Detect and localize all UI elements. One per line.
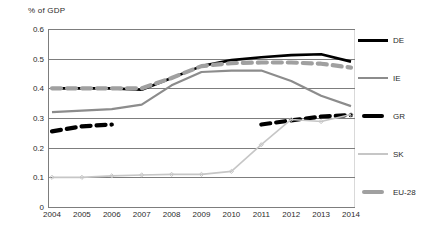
x-axis-tick-label: 2013	[312, 210, 330, 219]
x-axis-tick-label: 2007	[133, 210, 151, 219]
x-axis-tick-label: 2012	[282, 210, 300, 219]
y-axis-tick-labels: 00.10.20.30.40.50.6	[0, 29, 44, 207]
y-axis-tick-label: 0	[0, 203, 44, 212]
legend-swatch-sk	[358, 153, 388, 155]
x-axis-tick-label: 2010	[222, 210, 240, 219]
legend-swatch-gr	[362, 114, 384, 118]
y-axis-title: % of GDP	[28, 6, 65, 15]
x-axis-tick-label: 2009	[193, 210, 211, 219]
y-axis-tick-label: 0.6	[0, 25, 44, 34]
y-axis-tick-label: 0.1	[0, 173, 44, 182]
legend-item-de[interactable]: DE	[358, 34, 404, 46]
series-line-gr	[52, 125, 112, 132]
x-axis-tick-label: 2011	[253, 210, 270, 219]
series-line-ie	[52, 71, 351, 113]
plot-area	[48, 29, 355, 207]
y-axis-tick-label: 0.3	[0, 114, 44, 123]
x-axis-tick-label: 2014	[342, 210, 360, 219]
gridline	[48, 207, 355, 208]
legend-swatch-eu-28	[362, 190, 384, 194]
legend-item-ie[interactable]: IE	[358, 72, 401, 84]
legend-item-sk[interactable]: SK	[358, 148, 404, 160]
legend-label: SK	[393, 150, 404, 159]
legend-item-eu-28[interactable]: EU-28	[358, 186, 416, 198]
y-axis-tick-label: 0.4	[0, 84, 44, 93]
legend-item-gr[interactable]: GR	[358, 110, 405, 122]
legend-label: IE	[393, 74, 401, 83]
legend-label: GR	[393, 112, 405, 121]
legend-label: DE	[393, 36, 404, 45]
x-axis-tick-label: 2006	[103, 210, 121, 219]
x-axis-tick-label: 2005	[73, 210, 91, 219]
legend-swatch-ie	[358, 77, 388, 79]
y-axis-tick-label: 0.5	[0, 54, 44, 63]
legend-swatch-de	[358, 39, 388, 42]
y-axis-tick-label: 0.2	[0, 143, 44, 152]
x-axis-tick-label: 2004	[43, 210, 61, 219]
series-lines	[48, 29, 355, 207]
series-line-eu-28	[52, 63, 351, 89]
x-axis-tick-labels: 2004200520062007200820092010201120122013…	[48, 210, 355, 228]
legend-label: EU-28	[393, 188, 416, 197]
x-axis-tick-label: 2008	[163, 210, 181, 219]
chart-container: % of GDP 00.10.20.30.40.50.6 20042005200…	[0, 0, 426, 241]
